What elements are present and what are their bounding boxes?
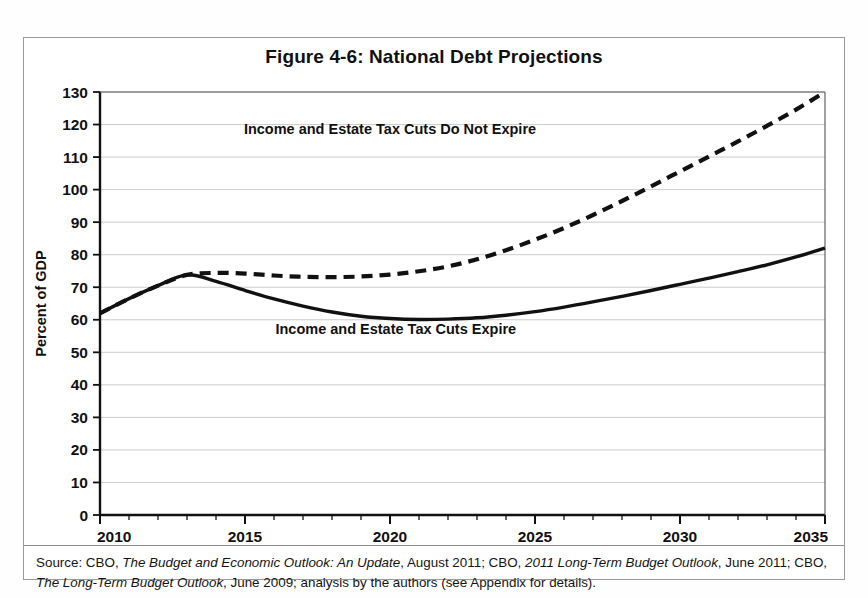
source-title-2: 2011 Long-Term Budget Outlook	[525, 555, 718, 570]
x-tick-label-2025: 2025	[518, 528, 553, 545]
y-tick-label-20: 20	[71, 441, 88, 458]
y-tick-label-90: 90	[71, 214, 88, 231]
source-mid-2: , June 2011; CBO,	[718, 555, 827, 570]
chart-svg: 0102030405060708090100110120130 20102015…	[0, 0, 868, 598]
y-tick-label-30: 30	[71, 409, 88, 426]
y-tick-label-0: 0	[79, 507, 88, 524]
chart-plot: 0102030405060708090100110120130 20102015…	[0, 0, 868, 598]
y-axis-ticks: 0102030405060708090100110120130	[62, 84, 100, 524]
series-label-0: Income and Estate Tax Cuts Do Not Expire	[244, 121, 536, 137]
y-tick-label-100: 100	[62, 181, 88, 198]
y-tick-label-130: 130	[62, 84, 88, 101]
figure-container: Figure 4-6: National Debt Projections 01…	[0, 0, 868, 598]
y-tick-label-60: 60	[71, 311, 88, 328]
y-tick-label-10: 10	[71, 474, 88, 491]
source-note: Source: CBO, The Budget and Economic Out…	[36, 553, 836, 592]
series-label-1: Income and Estate Tax Cuts Expire	[275, 321, 516, 337]
y-tick-label-70: 70	[71, 279, 88, 296]
series-line-1	[100, 248, 825, 319]
x-tick-label-2035: 2035	[794, 528, 829, 545]
series-annotations: Income and Estate Tax Cuts Do Not Expire…	[244, 121, 536, 337]
x-tick-label-2030: 2030	[663, 528, 697, 545]
source-divider	[24, 545, 844, 546]
y-tick-label-120: 120	[62, 116, 88, 133]
y-tick-label-110: 110	[63, 149, 88, 166]
y-axis-title: Percent of GDP	[33, 250, 49, 357]
axis-lines	[100, 92, 825, 515]
y-tick-label-50: 50	[71, 344, 88, 361]
x-axis-ticks: 201020152020202520302035	[97, 515, 828, 545]
source-tail: , June 2009; analysis by the authors (se…	[223, 575, 596, 590]
y-tick-label-80: 80	[71, 246, 88, 263]
y-axis-title-text: Percent of GDP	[33, 250, 49, 357]
source-mid-1: , August 2011; CBO,	[400, 555, 525, 570]
x-tick-label-2020: 2020	[373, 528, 407, 545]
source-title-3: The Long-Term Budget Outlook	[36, 575, 223, 590]
source-title-1: The Budget and Economic Outlook: An Upda…	[122, 555, 400, 570]
x-tick-label-2015: 2015	[228, 528, 263, 545]
source-prefix: Source: CBO,	[36, 555, 122, 570]
x-tick-label-2010: 2010	[97, 528, 131, 545]
y-tick-label-40: 40	[71, 376, 88, 393]
